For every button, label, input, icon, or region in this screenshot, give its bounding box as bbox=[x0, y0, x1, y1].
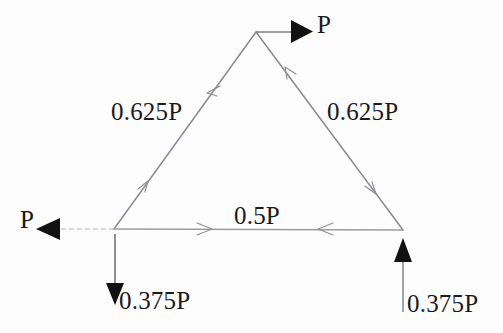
bottom-chord-force-label: 0.5P bbox=[234, 203, 280, 228]
apex-load-arrowhead-icon bbox=[291, 20, 313, 43]
member-right-line bbox=[256, 32, 403, 230]
left-load-label: P bbox=[20, 207, 34, 232]
right-member-lower-arrow-icon bbox=[365, 182, 376, 194]
right-reaction-arrowhead-icon bbox=[394, 238, 412, 262]
apex-load-label: P bbox=[317, 12, 331, 37]
bottom-chord-right-arrow-icon bbox=[318, 223, 333, 235]
apex-load-arrow bbox=[256, 20, 313, 43]
truss-diagram-canvas: 0.625P 0.625P 0.5P P P 0.375P 0.375P bbox=[0, 0, 503, 333]
member-left-line bbox=[114, 32, 256, 229]
member-bottom-chord-line bbox=[114, 229, 403, 230]
truss-members bbox=[114, 32, 403, 230]
left-member-lower-arrow-icon bbox=[138, 181, 148, 192]
left-load-arrow bbox=[36, 218, 114, 240]
left-load-arrowhead-icon bbox=[36, 218, 60, 240]
right-reaction-label: 0.375P bbox=[407, 291, 478, 316]
truss-figure bbox=[0, 0, 503, 333]
member-left-force-label: 0.625P bbox=[111, 99, 182, 124]
left-reaction-label: 0.375P bbox=[119, 288, 190, 313]
member-right-force-label: 0.625P bbox=[327, 99, 398, 124]
